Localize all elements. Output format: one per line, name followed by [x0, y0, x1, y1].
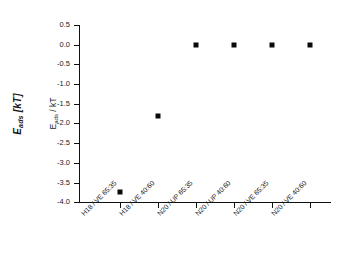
data-point-marker	[118, 190, 123, 195]
y-axis-tick	[74, 45, 79, 46]
y-axis-tick	[74, 143, 79, 144]
y-axis-tick-label: -3.5	[30, 179, 70, 187]
y-axis-tick-label: 0.5	[30, 21, 70, 29]
y-axis-tick	[74, 84, 79, 85]
y-axis-outer-title: Eads [kT]	[12, 64, 24, 164]
y-axis-outer-title-subscript: ads	[17, 115, 24, 128]
y-axis-line	[79, 25, 80, 203]
chart-figure: Eads [kT] Eads / kT 0.50.0-0.5-1.0-1.5-2…	[0, 0, 350, 263]
x-axis-tick	[310, 203, 311, 208]
x-axis-tick-label: N20 / UP 40:60	[194, 179, 232, 217]
x-axis-tick-label: H18 / VE 40:60	[118, 179, 156, 217]
y-axis-tick-label: -0.5	[30, 60, 70, 68]
y-axis-tick	[74, 163, 79, 164]
x-axis-tick-label: N20 / VE 65:35	[232, 179, 270, 217]
y-axis-tick	[74, 64, 79, 65]
x-axis-tick-label: N20 / UP 65:35	[156, 179, 194, 217]
y-axis-tick	[74, 123, 79, 124]
y-axis-tick-label: -4.0	[30, 198, 70, 206]
y-axis-tick-label: -1.0	[30, 80, 70, 88]
y-axis-tick	[74, 104, 79, 105]
y-axis-tick-label: -2.5	[30, 139, 70, 147]
data-point-marker	[194, 42, 199, 47]
data-point-marker	[232, 42, 237, 47]
data-point-marker	[156, 114, 161, 119]
data-point-marker	[308, 42, 313, 47]
data-point-marker	[270, 42, 275, 47]
y-axis-tick-label: -2.0	[30, 119, 70, 127]
y-axis-tick-label: -1.5	[30, 100, 70, 108]
y-axis-tick	[74, 25, 79, 26]
y-axis-tick-label: -3.0	[30, 159, 70, 167]
y-axis-tick-label: 0.0	[30, 41, 70, 49]
y-axis-tick	[74, 183, 79, 184]
y-axis-outer-title-unit: [kT]	[12, 93, 23, 115]
x-axis-tick-label: N20 / VE 40:60	[270, 179, 308, 217]
x-axis-tick-label: H18 / VE 65:35	[80, 179, 118, 217]
y-axis-tick	[74, 202, 79, 203]
y-axis-outer-title-symbol: E	[12, 128, 23, 135]
